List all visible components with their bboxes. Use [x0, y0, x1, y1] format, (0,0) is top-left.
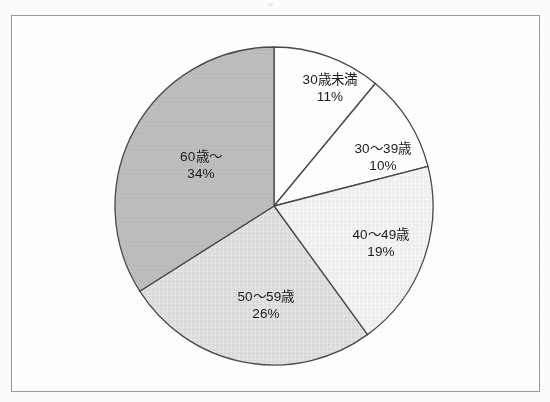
slice-label-name: 40〜49歳 [352, 226, 409, 243]
slice-label-value: 10% [354, 157, 411, 174]
slice-label-50-59: 50〜59歳 26% [237, 288, 294, 322]
slice-label-value: 26% [237, 305, 294, 322]
slice-label-name: 50〜59歳 [237, 288, 294, 305]
slice-label-value: 34% [180, 165, 222, 182]
slice-label-40-49: 40〜49歳 19% [352, 226, 409, 260]
slice-label-name: 60歳〜 [180, 148, 222, 165]
pie-chart-svg [0, 0, 550, 402]
slice-label-value: 11% [302, 88, 357, 105]
page-canvas: 30歳未満 11% 30〜39歳 10% 40〜49歳 19% 50〜59歳 2… [0, 0, 550, 402]
slice-label-30-miman: 30歳未満 11% [302, 71, 357, 105]
pie-chart: 30歳未満 11% 30〜39歳 10% 40〜49歳 19% 50〜59歳 2… [0, 0, 550, 402]
slice-label-value: 19% [352, 243, 409, 260]
slice-label-name: 30〜39歳 [354, 140, 411, 157]
slice-label-name: 30歳未満 [302, 71, 357, 88]
slice-label-30-39: 30〜39歳 10% [354, 140, 411, 174]
slice-label-60-plus: 60歳〜 34% [180, 148, 222, 182]
